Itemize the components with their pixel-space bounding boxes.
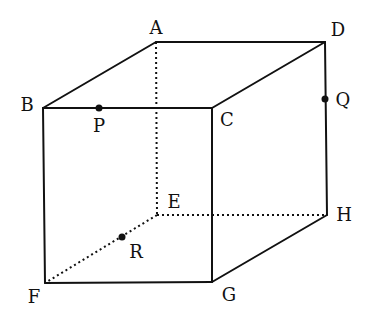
vertex-label-a: A [149,17,164,38]
edge-cd [212,42,325,108]
point-p-dot [96,105,103,112]
point-q-dot [322,96,329,103]
vertex-label-e: E [167,191,180,212]
vertex-labels: PQRADBCEHFG [20,17,351,307]
edge-bf [43,108,45,283]
point-label-q: Q [336,89,351,110]
point-label-p: P [93,115,105,136]
point-r-dot [119,234,126,241]
point-label-r: R [129,241,143,262]
edge-ab [43,42,156,108]
vertex-label-h: H [336,204,352,225]
edge-dh [325,42,327,215]
vertex-label-f: F [28,286,41,307]
cube-diagram: PQRADBCEHFG [0,0,373,322]
hidden-edges [45,42,327,283]
visible-edges [43,42,327,283]
cube-figure: PQRADBCEHFG [0,0,373,322]
vertex-label-g: G [222,284,236,305]
vertex-label-c: C [220,109,234,130]
vertex-label-b: B [20,94,33,115]
hidden-edge-ae [156,42,157,215]
edge-fg [45,282,212,283]
edge-gh [212,215,327,282]
vertex-label-d: D [331,19,345,40]
